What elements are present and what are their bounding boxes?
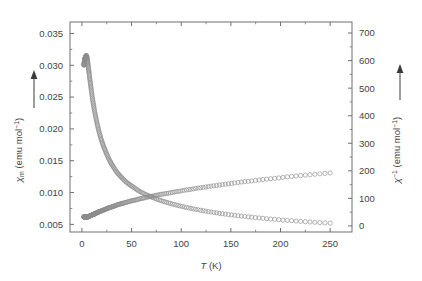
left-tick-label: 0.020: [39, 123, 63, 134]
minor-tick-marks: [70, 22, 352, 232]
right-tick-label: 300: [359, 138, 375, 149]
right-tick-label: 500: [359, 83, 375, 94]
left-tick-label: 0.030: [39, 60, 63, 71]
x-tick-label: 250: [322, 238, 338, 249]
x-tick-label: 150: [223, 238, 239, 249]
left-tick-label: 0.025: [39, 91, 63, 102]
series-chi-m-points: [82, 54, 332, 226]
major-tick-marks: [70, 22, 352, 232]
left-tick-label: 0.010: [39, 187, 63, 198]
right-tick-label: 400: [359, 110, 375, 121]
x-axis-title: T (K): [200, 260, 221, 271]
chart-canvas: 050100150200250 0.0050.0100.0150.0200.02…: [0, 0, 422, 281]
magnetic-susceptibility-figure: 050100150200250 0.0050.0100.0150.0200.02…: [0, 0, 422, 281]
left-tick-label: 0.015: [39, 155, 63, 166]
right-axis-title: χ−1 (emu mol−1): [391, 117, 402, 185]
x-tick-label: 100: [173, 238, 189, 249]
left-tick-label: 0.005: [39, 219, 63, 230]
right-tick-label: 200: [359, 165, 375, 176]
right-axis-arrow-head: [397, 64, 404, 73]
right-tick-label: 100: [359, 193, 375, 204]
right-axis-tick-labels: 0100200300400500600700: [359, 27, 375, 231]
left-axis-title: χm (emu mol−1): [13, 118, 25, 183]
left-axis-arrow-head: [31, 70, 38, 79]
left-axis-tick-labels: 0.0050.0100.0150.0200.0250.0300.035: [39, 28, 63, 230]
right-tick-label: 600: [359, 55, 375, 66]
plot-frame: [70, 22, 352, 232]
x-axis-tick-labels: 050100150200250: [79, 238, 338, 249]
x-tick-label: 0: [79, 238, 84, 249]
right-tick-label: 0: [359, 220, 364, 231]
x-tick-label: 200: [273, 238, 289, 249]
left-tick-label: 0.035: [39, 28, 63, 39]
right-tick-label: 700: [359, 27, 375, 38]
x-tick-label: 50: [126, 238, 137, 249]
